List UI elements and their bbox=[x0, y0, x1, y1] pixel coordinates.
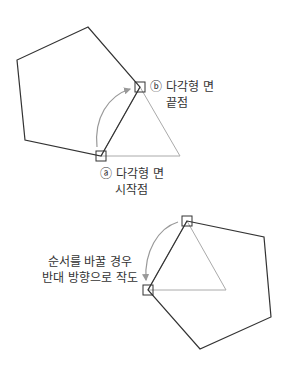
bottom-helper-triangle bbox=[148, 221, 226, 290]
label-start-point: ⓐ 다각형 면 시작점 bbox=[100, 166, 164, 198]
top-pentagon bbox=[17, 27, 140, 156]
label-end-point-line1: ⓑ 다각형 면 bbox=[150, 79, 214, 95]
bottom-figure bbox=[143, 216, 271, 349]
bottom-direction-arrow bbox=[146, 222, 178, 280]
bottom-pentagon bbox=[148, 221, 271, 349]
label-reverse-note-line2: 반대 방향으로 작도 bbox=[42, 270, 138, 286]
label-start-point-line1: ⓐ 다각형 면 bbox=[100, 166, 164, 182]
label-end-point: ⓑ 다각형 면 끝점 bbox=[150, 79, 214, 111]
label-start-point-line2: 시작점 bbox=[100, 182, 164, 198]
top-direction-arrow bbox=[97, 89, 130, 147]
label-end-point-line2: 끝점 bbox=[150, 95, 214, 111]
label-reverse-note-line1: 순서를 바꿀 경우 bbox=[42, 254, 138, 270]
label-reverse-note: 순서를 바꿀 경우 반대 방향으로 작도 bbox=[42, 254, 138, 286]
